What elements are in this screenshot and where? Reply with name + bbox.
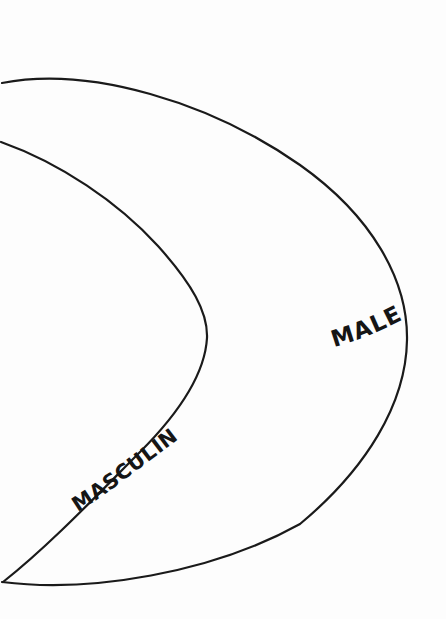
label-masculine-text: MASCULINE xyxy=(0,0,182,516)
nested-set-diagram: MALE MASCULINE xyxy=(0,0,446,619)
diagram-canvas: MALE MASCULINE xyxy=(0,0,446,619)
label-masculine: MASCULINE xyxy=(0,0,182,516)
inner-curve-masculine xyxy=(1,142,207,582)
label-male-text: MALE xyxy=(328,300,406,352)
label-male: MALE xyxy=(328,300,406,352)
